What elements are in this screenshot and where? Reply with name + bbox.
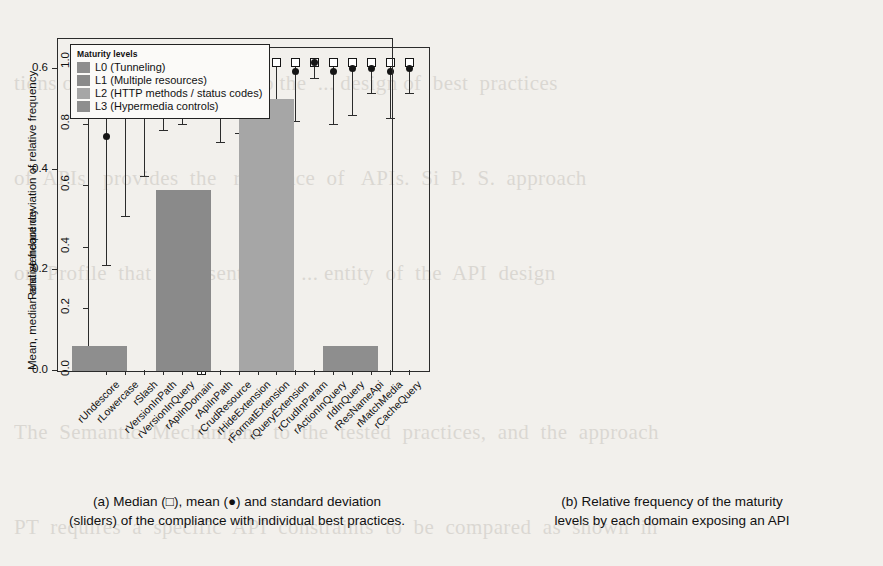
bar-l2 [239,99,294,371]
panel-b-y-tick-label: 0.4 [18,162,48,174]
panel-b-y-tick-label: 0.2 [18,262,48,274]
legend-item-label: L3 (Hypermedia controls) [95,100,219,112]
bar-l1 [156,190,211,371]
legend-item-label: L0 (Tunneling) [95,61,166,73]
caption-b-line2: levels by each domain exposing an API [468,511,876,530]
caption-a: (a) Median (□), mean (●) and standard de… [22,492,452,530]
panel-b-y-tick [52,370,57,371]
legend-item: L1 (Multiple resources) [77,74,262,86]
bar-l3 [323,346,378,371]
legend-swatch-icon [77,75,90,86]
error-bar-lower-cap [405,93,414,94]
legend-item-label: L2 (HTTP methods / status codes) [95,87,262,99]
panel-b-y-tick [52,169,57,170]
bar-l0 [72,346,127,371]
panel-b-y-tick [52,269,57,270]
legend-swatch-icon [77,62,90,73]
panel-b-y-tick-label: 0.6 [18,61,48,73]
caption-a-line1: (a) Median (□), mean (●) and standard de… [22,492,452,511]
legend-item-label: L1 (Multiple resources) [95,74,207,86]
legend-item: L2 (HTTP methods / status codes) [77,87,262,99]
legend-swatch-icon [77,101,90,112]
caption-b-line1: (b) Relative frequency of the maturity [468,492,876,511]
panel-b-y-tick [52,68,57,69]
panel-a-x-tick [409,370,410,375]
legend-swatch-icon [77,88,90,99]
caption-a-line2: (sliders) of the compliance with individ… [22,511,452,530]
panel-b-y-tick-label: 0.0 [18,363,48,375]
mean-marker [406,65,413,72]
panel-b-y-axis-label: Relative frequency [26,209,38,300]
legend-items: L0 (Tunneling)L1 (Multiple resources)L2 … [77,61,262,112]
legend-title: Maturity levels [77,49,262,59]
figure-container: Mean, median and standard deviation of r… [0,0,883,566]
caption-b: (b) Relative frequency of the maturity l… [468,492,876,530]
maturity-levels-legend: Maturity levels L0 (Tunneling)L1 (Multip… [70,44,270,119]
legend-item: L3 (Hypermedia controls) [77,100,262,112]
legend-item: L0 (Tunneling) [77,61,262,73]
